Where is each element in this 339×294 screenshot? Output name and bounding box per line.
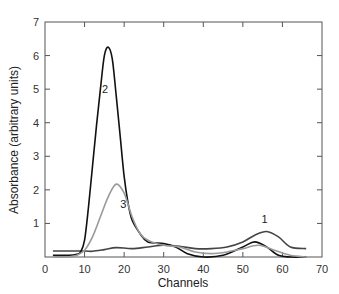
x-tick-label: 40 [197,263,209,275]
curve-2 [53,47,306,257]
x-axis-label: Channels [158,276,209,290]
x-tick-label: 20 [118,263,130,275]
curve-label-2: 2 [102,83,108,95]
curve-label-3: 3 [120,198,126,210]
y-tick-label: 7 [33,16,39,28]
y-tick-label: 1 [33,217,39,229]
curve-3 [53,184,306,257]
y-tick-label: 2 [33,184,39,196]
curve-label-1: 1 [262,213,268,225]
x-tick-label: 10 [78,263,90,275]
x-tick-label: 60 [276,263,288,275]
x-tick-label: 30 [158,263,170,275]
y-tick-label: 3 [33,150,39,162]
absorbance-chart: 0102030405060701234567 123 Channels Abso… [0,0,339,294]
axis-ticks: 0102030405060701234567 [33,16,328,275]
x-tick-label: 70 [316,263,328,275]
y-axis-label: Absorbance (arbitrary units) [7,66,21,214]
y-tick-label: 6 [33,50,39,62]
curve-labels: 123 [102,83,268,226]
curves [53,47,306,257]
y-tick-label: 5 [33,83,39,95]
x-tick-label: 50 [237,263,249,275]
y-tick-label: 4 [33,117,39,129]
x-tick-label: 0 [42,263,48,275]
